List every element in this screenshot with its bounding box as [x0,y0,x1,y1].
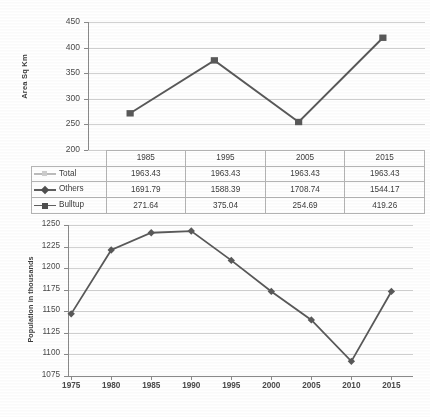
legend-key-total-icon [33,169,57,179]
x-tick-mark [391,376,392,380]
table-header-row: 1985 1995 2005 2015 [32,151,425,167]
table-cell: 1963.43 [345,166,425,182]
y-tick-label: 400 [50,42,80,52]
top-chart-series-bulltup [88,22,425,150]
x-tick-label: 2000 [251,381,291,390]
x-tick-label: 2005 [291,381,331,390]
table-column-header: 2015 [345,151,425,167]
top-line-chart: Area Sq Km 450400350300250200 [0,0,430,150]
x-tick-mark [351,376,352,380]
table-cell: 254.69 [265,198,345,214]
table-row: Bulltup 271.64 375.04 254.69 419.26 [32,198,425,214]
y-tick-label: 1125 [28,327,60,336]
table-row: Total 1963.43 1963.43 1963.43 1963.43 [32,166,425,182]
y-tick-label: 450 [50,16,80,26]
bottom-line-chart: Population in thousands 1250122512001175… [0,213,430,417]
table-column-header: 1985 [106,151,186,167]
table-legend-cell-bulltup: Bulltup [32,198,107,214]
y-tick-mark [64,376,68,377]
top-chart-y-axis-title: Area Sq Km [20,42,29,112]
bottom-chart-x-axis-line [68,376,413,377]
table-cell: 1544.17 [345,182,425,198]
bottom-chart-plot-area [68,225,413,376]
x-tick-mark [71,376,72,380]
table-legend-cell-total: Total [32,166,107,182]
table-cell: 1708.74 [265,182,345,198]
table-corner-cell [32,151,107,167]
y-tick-mark [84,99,88,100]
y-tick-mark [64,354,68,355]
y-tick-mark [84,22,88,23]
y-tick-mark [84,73,88,74]
series-label-others: Others [59,182,84,197]
y-tick-label: 250 [50,118,80,128]
y-tick-mark [64,290,68,291]
x-tick-mark [311,376,312,380]
x-tick-label: 1995 [211,381,251,390]
y-tick-label: 1200 [28,262,60,271]
y-tick-mark [64,311,68,312]
x-tick-label: 2015 [371,381,411,390]
table-row: Others 1691.79 1588.39 1708.74 1544.17 [32,182,425,198]
table-cell: 419.26 [345,198,425,214]
x-tick-label: 2010 [331,381,371,390]
x-tick-label: 1990 [171,381,211,390]
bottom-chart-y-axis-title: Population in thousands [26,244,35,356]
y-tick-mark [64,268,68,269]
series-label-total: Total [59,167,76,182]
x-tick-label: 1975 [51,381,91,390]
x-tick-mark [191,376,192,380]
y-tick-mark [64,333,68,334]
y-tick-label: 1150 [28,305,60,314]
table-cell: 271.64 [106,198,186,214]
y-tick-label: 1250 [28,219,60,228]
table-legend-cell-others: Others [32,182,107,198]
table-column-header: 2005 [265,151,345,167]
chart-data-table: 1985 1995 2005 2015 Total 1963.43 1963.4… [31,150,425,214]
table-cell: 1963.43 [186,166,266,182]
top-chart-plot-area [88,22,425,150]
table-cell: 1963.43 [106,166,186,182]
y-tick-label: 1075 [28,370,60,379]
figure-container: Area Sq Km 450400350300250200 1985 1995 … [0,0,430,417]
table-cell: 1963.43 [265,166,345,182]
y-tick-mark [64,225,68,226]
y-tick-mark [84,124,88,125]
y-tick-label: 1100 [28,348,60,357]
y-tick-label: 350 [50,67,80,77]
x-tick-mark [151,376,152,380]
y-tick-mark [64,247,68,248]
y-tick-mark [84,48,88,49]
table-cell: 1691.79 [106,182,186,198]
table-cell: 375.04 [186,198,266,214]
x-tick-mark [111,376,112,380]
y-tick-label: 1175 [28,284,60,293]
x-tick-label: 1985 [131,381,171,390]
series-label-bulltup: Bulltup [59,198,84,213]
x-tick-label: 1980 [91,381,131,390]
table-column-header: 1995 [186,151,266,167]
bottom-chart-series-population [68,225,413,376]
x-tick-mark [231,376,232,380]
y-tick-label: 1225 [28,241,60,250]
x-tick-mark [271,376,272,380]
legend-key-bulltup-icon [33,201,57,211]
y-tick-label: 300 [50,93,80,103]
table-cell: 1588.39 [186,182,266,198]
legend-key-others-icon [33,185,57,195]
